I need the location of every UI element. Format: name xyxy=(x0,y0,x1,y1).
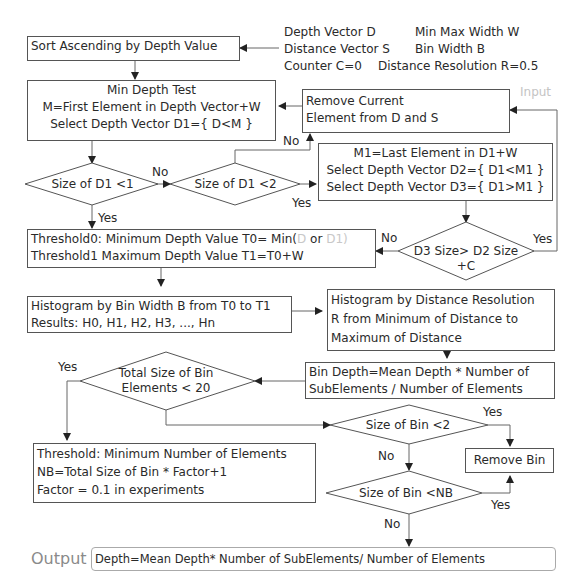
bin-depth-box: Bin Depth=Mean Depth * Number of SubElem… xyxy=(305,362,555,399)
histogram-distance-line1: Histogram by Distance Resolution xyxy=(331,291,551,310)
input-parameters: Depth Vector DMin Max Width W Distance V… xyxy=(284,24,574,75)
histogram-distance-line3: Maximum of Distance xyxy=(331,329,551,348)
remove-current-box: Remove Current Element from D and S xyxy=(302,89,510,133)
input-distance-resolution: Distance Resolution R=0.5 xyxy=(378,58,538,75)
sort-ascending-box: Sort Ascending by Depth Value xyxy=(27,36,240,61)
label-yes-d1-lt2: Yes xyxy=(292,196,311,210)
remove-bin-text: Remove Bin xyxy=(469,452,550,469)
remove-current-line1: Remove Current xyxy=(306,93,506,110)
input-counter: Counter C=0 xyxy=(284,58,378,75)
output-text: Depth=Mean Depth* Number of SubElements/… xyxy=(95,551,552,568)
label-yes-d3: Yes xyxy=(533,232,552,246)
d3-select-line: Select Depth Vector D3={ D1>M1 } xyxy=(322,179,549,196)
threshold0-faded-d1: D1 xyxy=(326,232,343,246)
histogram-distance-box: Histogram by Distance Resolution R from … xyxy=(327,289,555,351)
output-label: Output xyxy=(31,549,87,568)
size-d1-lt2-text: Size of D1 <2 xyxy=(188,177,283,192)
input-bin-width: Bin Width B xyxy=(415,41,485,58)
label-yes-total: Yes xyxy=(58,360,77,374)
remove-bin-box: Remove Bin xyxy=(465,448,554,473)
remove-current-line2: Element from D and S xyxy=(306,110,506,127)
output-box: Depth=Mean Depth* Number of SubElements/… xyxy=(91,547,556,571)
m1-line: M1=Last Element in D1+W xyxy=(322,145,549,162)
threshold-min-box: Threshold: Minimum Number of Elements NB… xyxy=(33,443,316,503)
bin-depth-line2: SubElements / Number of Elements xyxy=(309,381,551,398)
threshold0-line: Threshold0: Minimum Depth Value T0= Min(… xyxy=(31,231,372,248)
label-yes-d1-lt1: Yes xyxy=(98,211,117,225)
label-no-d1-lt1: No xyxy=(152,165,168,179)
input-depth-vector: Depth Vector D xyxy=(284,24,415,41)
bin-depth-line1: Bin Depth=Mean Depth * Number of xyxy=(309,364,551,381)
input-min-max-width: Min Max Width W xyxy=(415,24,519,41)
min-depth-select: Select Depth Vector D1={ D<M } xyxy=(31,116,272,133)
histogram-bin-box: Histogram by Bin Width B from T0 to T1 R… xyxy=(27,296,292,333)
size-bin-ltnb-text: Size of Bin <NB xyxy=(352,486,460,501)
size-bin-lt2-text: Size of Bin <2 xyxy=(358,418,458,433)
threshold-min-line3: Factor = 0.1 in experiments xyxy=(37,481,312,499)
threshold0-mid: or xyxy=(306,232,326,246)
min-depth-test-box: Min Depth Test M=First Element in Depth … xyxy=(27,80,276,141)
label-no-d3: No xyxy=(381,231,397,245)
threshold-box: Threshold0: Minimum Depth Value T0= Min(… xyxy=(27,229,376,268)
d2-select-line: Select Depth Vector D2={ D1<M1 } xyxy=(322,162,549,179)
histogram-distance-line2: R from Minimum of Distance to xyxy=(331,310,551,329)
d3-line2: +C xyxy=(405,259,527,274)
input-label: Input xyxy=(520,85,551,99)
threshold0-prefix: Threshold0: Minimum Depth Value T0= Min( xyxy=(31,232,297,246)
threshold-min-line1: Threshold: Minimum Number of Elements xyxy=(37,445,312,463)
total-size-line2: Elements < 20 xyxy=(110,381,222,396)
sort-text: Sort Ascending by Depth Value xyxy=(31,38,236,55)
threshold1-line: Threshold1 Maximum Depth Value T1=T0+W xyxy=(31,248,372,265)
label-yes-bin-lt2: Yes xyxy=(483,405,502,419)
threshold-min-line2: NB=Total Size of Bin * Factor+1 xyxy=(37,463,312,481)
total-size-line1: Total Size of Bin xyxy=(110,366,222,381)
label-no-d1-lt2: No xyxy=(283,134,299,148)
threshold0-suffix: ) xyxy=(343,232,348,246)
histogram-bin-line2: Results: H0, H1, H2, H3, ..., Hn xyxy=(31,315,288,332)
total-size-text: Total Size of Bin Elements < 20 xyxy=(110,366,222,396)
label-no-bin-lt2: No xyxy=(378,449,394,463)
label-no-bin-ltnb: No xyxy=(384,517,400,531)
d3-line1: D3 Size> D2 Size xyxy=(405,244,527,259)
d3-vs-d2-text: D3 Size> D2 Size +C xyxy=(405,244,527,274)
m1-select-box: M1=Last Element in D1+W Select Depth Vec… xyxy=(318,143,553,201)
size-d1-lt1-text: Size of D1 <1 xyxy=(45,177,140,192)
input-distance-vector: Distance Vector S xyxy=(284,41,415,58)
min-depth-title: Min Depth Test xyxy=(31,82,272,99)
threshold0-faded-d: D xyxy=(297,232,306,246)
min-depth-m: M=First Element in Depth Vector+W xyxy=(31,99,272,116)
histogram-bin-line1: Histogram by Bin Width B from T0 to T1 xyxy=(31,298,288,315)
label-yes-bin-ltnb: Yes xyxy=(491,498,510,512)
